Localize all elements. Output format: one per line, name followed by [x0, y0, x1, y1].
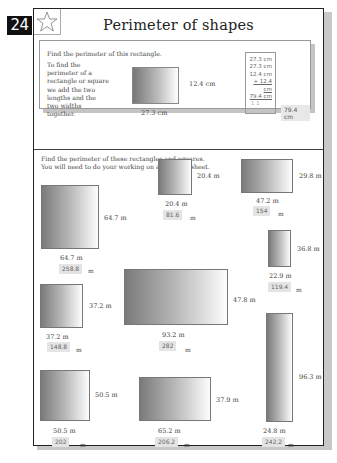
unit-label: m [88, 267, 94, 274]
shape-rectangle-6 [124, 269, 228, 325]
shape-rectangle-9 [139, 377, 211, 421]
example-answer: 79.4 cm [281, 105, 310, 121]
shape-square-2 [158, 159, 192, 195]
shape-square-1 [41, 185, 99, 249]
working-line: 27.3 cm [246, 56, 272, 63]
unit-label: m [278, 210, 284, 217]
answer-field[interactable]: 119.4 [268, 282, 291, 292]
unit-label: m [288, 441, 294, 448]
shape-6-width: 47.8 m [233, 296, 256, 304]
shape-rectangle-3 [241, 159, 293, 193]
shape-5-length: 37.2 m [46, 333, 69, 341]
working-line: 12.4 cm [246, 71, 272, 78]
working-line: 27.3 cm [246, 63, 272, 70]
shape-4-length: 22.9 m [269, 272, 292, 280]
unit-label: m [296, 286, 302, 293]
unit-label: m [80, 441, 86, 448]
example-length-label: 27.3 cm [141, 109, 167, 117]
shape-9-width: 37.9 m [216, 396, 239, 404]
working-line: + 12.4 cm [246, 78, 272, 93]
answer-field[interactable]: 258.8 [59, 264, 82, 274]
shape-2-length: 20.4 m [165, 200, 188, 208]
example-heading: Find the perimeter of this rectangle. [47, 50, 162, 57]
answer-field[interactable]: 206.2 [155, 437, 178, 447]
shape-3-width: 29.8 m [299, 172, 322, 180]
example-width-label: 12.4 cm [189, 80, 215, 88]
shape-2-width: 20.4 m [197, 172, 220, 180]
example-description: To find the perimeter of a rectangle or … [47, 61, 109, 118]
unit-label: m [76, 346, 82, 353]
page-title: Perimeter of shapes [34, 17, 323, 33]
shape-7-width: 96.3 m [299, 373, 322, 381]
answer-field[interactable]: 148.8 [47, 342, 70, 352]
shape-5-width: 37.2 m [89, 302, 112, 310]
answer-field[interactable]: 282 [159, 341, 176, 351]
answer-field[interactable]: 154 [253, 206, 270, 216]
page-number: 24 [7, 16, 32, 35]
example-box: Find the perimeter of this rectangle. To… [39, 40, 311, 109]
shape-rectangle-4 [268, 230, 291, 267]
section-divider [34, 149, 323, 150]
unit-label: m [184, 441, 190, 448]
shape-6-length: 93.2 m [162, 331, 185, 339]
shape-4-width: 36.8 m [297, 245, 320, 253]
answer-field[interactable]: 81.6 [163, 210, 182, 220]
answer-field[interactable]: 202 [52, 437, 69, 447]
unit-label: m [190, 214, 196, 221]
shape-square-8 [40, 370, 90, 421]
shape-7-length: 24.8 m [263, 427, 286, 435]
working-carry: 1 1 [246, 100, 272, 107]
example-rectangle [132, 67, 179, 104]
shape-rectangle-7 [266, 313, 293, 422]
shape-1-length: 64.7 m [60, 254, 83, 262]
shape-3-length: 47.2 m [256, 197, 279, 205]
unit-label: m [185, 346, 191, 353]
shape-1-width: 64.7 m [104, 214, 127, 222]
worksheet-frame: Perimeter of shapes Find the perimeter o… [33, 8, 324, 446]
working-total: 79.4 cm [246, 93, 272, 100]
shape-8-length: 50.5 m [53, 427, 76, 435]
shape-8-width: 50.5 m [95, 391, 118, 399]
answer-field[interactable]: 242.2 [262, 437, 285, 447]
shape-9-length: 65.2 m [158, 427, 181, 435]
working-box: 27.3 cm 27.3 cm 12.4 cm + 12.4 cm 79.4 c… [245, 52, 276, 114]
shape-square-5 [40, 284, 83, 328]
